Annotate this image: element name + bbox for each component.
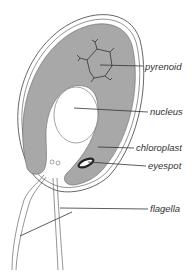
label-eyespot: eyespot <box>148 161 181 171</box>
nucleus <box>54 87 98 143</box>
label-nucleus: nucleus <box>150 107 183 117</box>
label-pyrenoid: pyrenoid <box>145 62 181 72</box>
flagella-leader-2 <box>20 212 72 236</box>
label-chloroplast: chloroplast <box>136 143 182 153</box>
label-flagella: flagella <box>150 204 180 214</box>
contractile-vacuole <box>50 160 54 164</box>
flagella-leader-1 <box>60 208 148 209</box>
contractile-vacuole <box>56 161 60 165</box>
alga-cell-diagram <box>0 0 196 276</box>
